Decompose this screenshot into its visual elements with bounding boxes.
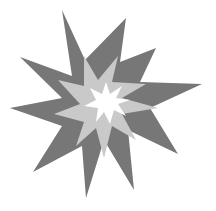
starburst-svg <box>0 0 216 211</box>
starburst-illustration <box>0 0 216 211</box>
